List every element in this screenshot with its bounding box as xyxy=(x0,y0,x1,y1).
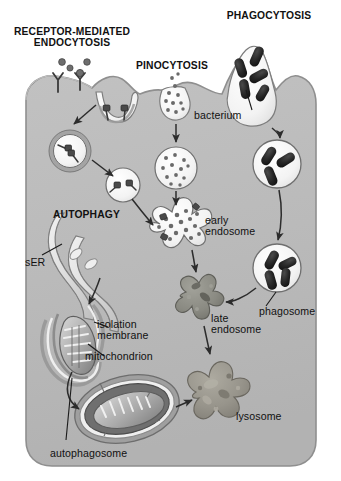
label-lysosome: lysosome xyxy=(236,411,282,422)
label-late-endosome: late endosome xyxy=(211,313,261,336)
label-early-endosome: early endosome xyxy=(205,215,255,238)
pinocytic-pit xyxy=(160,72,191,120)
receptor-free-ligands xyxy=(59,59,91,72)
label-phagosome: phagosome xyxy=(259,306,315,317)
label-autophagosome: autophagosome xyxy=(50,448,127,459)
coated-vesicle xyxy=(49,130,91,172)
uncoated-vesicle xyxy=(106,168,140,202)
label-ser: sER xyxy=(25,257,45,268)
pinocytic-vesicle xyxy=(155,147,197,189)
diagram-canvas xyxy=(0,0,341,481)
heading-receptor-mediated-endocytosis: RECEPTOR-MEDIATED ENDOCYTOSIS xyxy=(12,26,132,48)
figure-endocytic-pathways: RECEPTOR-MEDIATED ENDOCYTOSIS PINOCYTOSI… xyxy=(0,0,341,481)
heading-phagocytosis: PHAGOCYTOSIS xyxy=(220,10,318,21)
heading-pinocytosis: PINOCYTOSIS xyxy=(131,60,213,71)
heading-autophagy: AUTOPHAGY xyxy=(53,209,137,220)
label-bacterium: bacterium xyxy=(194,110,241,121)
label-mitochondrion: mitochondrion xyxy=(85,351,153,362)
label-isolation-membrane: isolation membrane xyxy=(97,319,148,342)
phagosome-upper xyxy=(253,140,301,188)
phagosome-lower xyxy=(253,244,301,292)
